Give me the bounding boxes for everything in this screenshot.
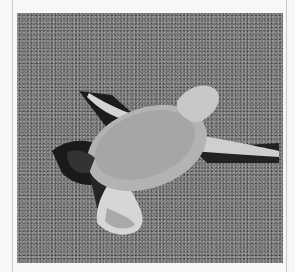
turtle-illustration xyxy=(17,13,283,263)
turtle-photo xyxy=(17,13,283,263)
frame-right-line xyxy=(286,0,287,272)
frame-left-line xyxy=(12,0,13,272)
